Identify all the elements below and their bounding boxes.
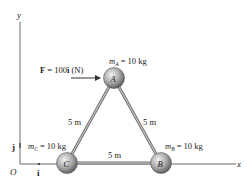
y-axis-label: y [16,10,21,20]
ball-A-letter: A [110,74,117,84]
length-label-AB: 5 m [143,117,156,127]
origin-label: O [10,167,17,177]
mass-label-B: mB = 10 kg [165,141,203,152]
force-units: (N) [69,65,83,75]
mass-A-value: = 10 kg [119,56,148,66]
ball-B-letter: B [158,159,163,169]
mass-B: B [151,153,172,174]
mass-label-A: mA = 10 kg [109,56,147,67]
mass-C-value: = 10 kg [38,141,67,151]
mass-label-C: mC = 10 kg [28,141,67,152]
ball-C-letter: C [64,159,70,169]
length-label-CB: 5 m [108,150,121,160]
unit-j-label: j [11,142,15,152]
unit-i-label: i [37,168,40,178]
mass-B-value: = 10 kg [175,141,204,151]
applied-force: F = 100i (N) [40,65,100,78]
force-label: F = 100i (N) [40,65,83,75]
triangle-mass-system-diagram: y x O j i 5 m 5 m 5 m A C B F = 100i (N) [0,0,247,186]
force-magnitude: = 100 [45,65,67,75]
coordinate-axes: y x O j i [10,10,241,178]
unit-i-marker [38,163,40,165]
mass-C: C [57,153,78,174]
length-label-AC: 5 m [68,117,81,127]
mass-A: A [104,68,125,89]
x-axis-label: x [236,159,241,169]
